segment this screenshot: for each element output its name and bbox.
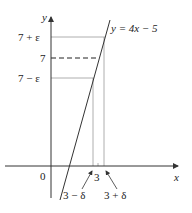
x-tick-3-plus-delta: 3 + δ [104, 190, 126, 201]
arrow-3-minus-delta [82, 171, 92, 189]
x-tick-3: 3 [94, 172, 100, 183]
origin-label: 0 [40, 171, 46, 182]
x-axis-label: x [174, 172, 179, 183]
y-tick-7-minus-eps: 7 − ε [18, 73, 40, 84]
line-equation-label: y = 4x − 5 [111, 23, 158, 34]
x-tick-3-minus-delta: 3 − δ [63, 190, 85, 201]
y-axis-label: y [42, 12, 47, 23]
line-y-4x-5 [60, 20, 110, 200]
y-tick-7: 7 [40, 53, 46, 64]
y-tick-7-plus-eps: 7 + ε [18, 32, 40, 43]
arrow-3-plus-delta [106, 171, 117, 189]
